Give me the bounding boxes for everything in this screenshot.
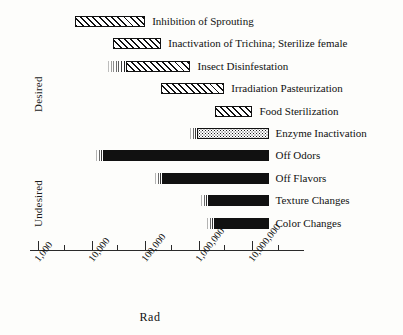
x-axis-tick-minor [278, 245, 279, 250]
x-axis-tick-label: 100,000 [139, 231, 168, 263]
bar-label: Insect Disinfestation [197, 61, 288, 72]
bar-label: Food Sterilization [259, 106, 338, 117]
bar-label: Texture Changes [276, 195, 350, 206]
x-axis-tick-minor [224, 245, 225, 250]
bar-row: Enzyme Inactivation [0, 128, 403, 139]
bar-solid [208, 195, 269, 206]
bar-label: Inhibition of Sprouting [152, 16, 253, 27]
bar-row: Inactivation of Trichina; Sterilize fema… [0, 38, 403, 49]
bar-row: Irradiation Pasteurization [0, 83, 403, 94]
bar-row: Off Flavors [0, 173, 403, 184]
bar-row: Color Changes [0, 218, 403, 229]
bar-label: Off Odors [276, 150, 321, 161]
bar-gradient-lead-in [201, 195, 208, 206]
bar-gradient-lead-in [207, 218, 214, 229]
bar-hatch [215, 106, 252, 117]
bar-label: Enzyme Inactivation [276, 128, 367, 139]
bar-gradient-lead-in [190, 128, 197, 139]
bar-gradient-lead-in [155, 173, 162, 184]
x-axis-title: Rad [0, 310, 300, 325]
bar-label: Off Flavors [276, 173, 327, 184]
bar-hatch [126, 61, 191, 72]
x-axis-tick-minor [117, 245, 118, 250]
bar-row: Food Sterilization [0, 106, 403, 117]
x-axis-tick-minor [64, 245, 65, 250]
x-axis-tick-minor [171, 245, 172, 250]
bar-row: Inhibition of Sprouting [0, 16, 403, 27]
bar-solid [214, 218, 269, 229]
bar-hatch [113, 38, 161, 49]
bar-gradient-lead-in [108, 61, 126, 72]
x-axis-tick-label: 1,000 [32, 239, 55, 264]
bar-row: Off Odors [0, 150, 403, 161]
bar-label: Irradiation Pasteurization [231, 83, 343, 94]
bar-row: Insect Disinfestation [0, 61, 403, 72]
bar-gradient-lead-in [96, 150, 103, 161]
irradiation-dose-chart: Desired Undesired Inhibition of Sproutin… [0, 0, 403, 335]
x-axis-tick-label: 1,000,000 [193, 225, 226, 263]
bar-hatch [75, 16, 145, 27]
bar-label: Color Changes [276, 218, 342, 229]
bar-row: Texture Changes [0, 195, 403, 206]
bar-hatch [161, 83, 224, 94]
bar-stipple [197, 128, 268, 139]
bar-solid [103, 150, 269, 161]
bar-label: Inactivation of Trichina; Sterilize fema… [168, 38, 347, 49]
bar-solid [162, 173, 269, 184]
